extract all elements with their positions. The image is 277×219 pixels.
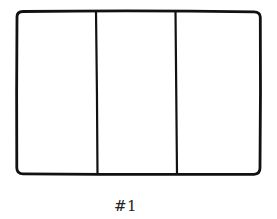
panel-middle: [98, 13, 174, 172]
panel-divider-2: [176, 12, 178, 175]
panel-left: [19, 13, 94, 172]
panel-divider-1: [96, 12, 98, 175]
panel-layout-diagram: [0, 0, 277, 219]
figure-caption: #1: [0, 197, 277, 215]
panel-right: [178, 13, 259, 172]
caption-label: #1: [114, 197, 137, 215]
